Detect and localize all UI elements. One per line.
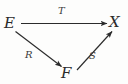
object-label-E: E [4,16,15,31]
object-label-F: F [61,66,71,81]
arrow-E-to-F [16,32,62,67]
commutative-diagram: E X F T R S [0,0,128,84]
arrow-label-R: R [25,50,33,60]
object-label-X: X [109,15,120,30]
arrow-label-S: S [89,51,96,61]
arrow-label-T: T [58,6,65,16]
